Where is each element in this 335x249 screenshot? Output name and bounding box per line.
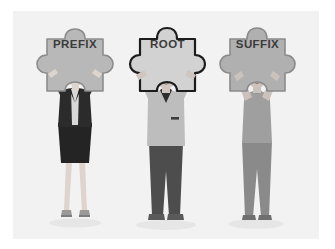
shadow-middle — [136, 220, 196, 230]
ground-shadows — [49, 219, 284, 231]
man-shoes — [148, 214, 184, 220]
shadow-left — [49, 219, 101, 228]
puzzle-piece-suffix[interactable]: SUFFIX — [220, 28, 295, 91]
ponytail-leggings — [242, 141, 272, 217]
woman-suit-legs — [64, 161, 87, 211]
illustration-panel: PREFIX ROOT SUFFIX — [13, 11, 319, 239]
man-trousers — [149, 143, 183, 216]
puzzle-piece-root-label: ROOT — [150, 38, 185, 50]
shadow-right — [228, 219, 284, 229]
puzzle-piece-root[interactable]: ROOT — [130, 28, 205, 91]
puzzle-piece-suffix-label: SUFFIX — [236, 38, 279, 50]
woman-suit-skirt — [58, 123, 92, 163]
woman-suit-shoes — [61, 210, 90, 217]
illustration-canvas: PREFIX ROOT SUFFIX — [0, 0, 335, 249]
puzzle-piece-prefix[interactable]: PREFIX — [37, 29, 113, 91]
man-shirt-pocket — [171, 117, 179, 120]
illustration-artwork: PREFIX ROOT SUFFIX — [13, 11, 319, 239]
puzzle-piece-prefix-label: PREFIX — [53, 38, 97, 50]
